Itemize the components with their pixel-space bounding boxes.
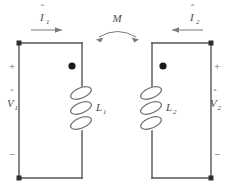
terminal-dot-bottom-left [17, 176, 22, 181]
label-mutual-inductance: M [111, 12, 122, 24]
terminal-dot-bottom-right [209, 176, 214, 181]
inductor-left-subscript: 1 [103, 108, 107, 116]
inductor-right-symbol: L [165, 101, 172, 113]
right-current-arrow-head [172, 27, 179, 33]
current-left-subscript: 1 [46, 18, 50, 26]
label-voltage-left: ˆ V 1 [7, 88, 18, 112]
current-right-symbol: I [189, 11, 195, 23]
left-inductor-coil [69, 84, 93, 132]
circuit-diagram-figure: ˆ I 1 ˆ I 2 M ˆ V 1 ˆ V 2 L 1 [0, 0, 229, 195]
dot-convention-marker-right [159, 62, 166, 69]
label-inductor-right: L 2 [165, 101, 177, 116]
label-current-left: ˆ I 1 [39, 3, 50, 26]
right-current-arrow [172, 27, 203, 33]
right-inductor-coil [139, 84, 163, 132]
inductor-right-subscript: 2 [173, 108, 177, 116]
polarity-plus-left: + [9, 60, 15, 72]
terminal-dot-top-right [209, 41, 214, 46]
inductor-left-symbol: L [95, 101, 102, 113]
mutual-coupling-arrow-head-right [132, 38, 139, 43]
left-current-arrow-head [55, 27, 62, 33]
dot-convention-marker-left [68, 62, 75, 69]
polarity-minus-right: − [214, 148, 220, 160]
label-current-right: ˆ I 2 [189, 3, 200, 26]
current-right-subscript: 2 [196, 18, 200, 26]
mutual-coupling-arrow [96, 32, 139, 43]
polarity-plus-right: + [214, 60, 220, 72]
label-voltage-right: ˆ V 2 [210, 88, 222, 112]
label-inductor-left: L 1 [95, 101, 107, 116]
voltage-left-subscript: 1 [15, 104, 19, 112]
terminal-dot-top-left [17, 41, 22, 46]
mutual-coupling-arc [99, 32, 136, 38]
polarity-minus-left: − [9, 148, 15, 160]
voltage-right-subscript: 2 [218, 104, 222, 112]
current-left-symbol: I [39, 11, 45, 23]
left-current-arrow [31, 27, 62, 33]
mutual-coupling-arrow-head-left [96, 38, 103, 43]
